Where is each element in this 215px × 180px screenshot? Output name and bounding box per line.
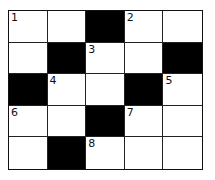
- crossword-cell[interactable]: [163, 137, 202, 169]
- crossword-cell[interactable]: 8: [86, 137, 125, 169]
- clue-number: 6: [11, 107, 18, 119]
- crossword-cell[interactable]: [9, 137, 48, 169]
- crossword-cell[interactable]: 1: [9, 11, 48, 43]
- crossword-cell[interactable]: [48, 106, 87, 138]
- crossword-grid: 12345678: [8, 10, 203, 170]
- clue-number: 3: [88, 44, 95, 56]
- crossword-cell[interactable]: [163, 106, 202, 138]
- black-square: [163, 43, 202, 75]
- crossword-cell[interactable]: [48, 11, 87, 43]
- crossword-cell[interactable]: [9, 43, 48, 75]
- crossword-cell[interactable]: 2: [125, 11, 164, 43]
- crossword-cell[interactable]: 6: [9, 106, 48, 138]
- clue-number: 2: [127, 12, 134, 24]
- clue-number: 7: [127, 107, 134, 119]
- crossword-cell[interactable]: [163, 11, 202, 43]
- crossword-cell[interactable]: 7: [125, 106, 164, 138]
- black-square: [48, 137, 87, 169]
- black-square: [48, 43, 87, 75]
- crossword-cell[interactable]: 4: [48, 74, 87, 106]
- black-square: [86, 11, 125, 43]
- crossword-cell[interactable]: [125, 137, 164, 169]
- crossword-cell[interactable]: 5: [163, 74, 202, 106]
- black-square: [125, 74, 164, 106]
- clue-number: 4: [50, 75, 57, 87]
- clue-number: 1: [11, 12, 18, 24]
- black-square: [9, 74, 48, 106]
- crossword-cell[interactable]: 3: [86, 43, 125, 75]
- clue-number: 8: [88, 138, 95, 150]
- black-square: [86, 106, 125, 138]
- clue-number: 5: [165, 75, 172, 87]
- crossword-cell[interactable]: [86, 74, 125, 106]
- crossword-cell[interactable]: [125, 43, 164, 75]
